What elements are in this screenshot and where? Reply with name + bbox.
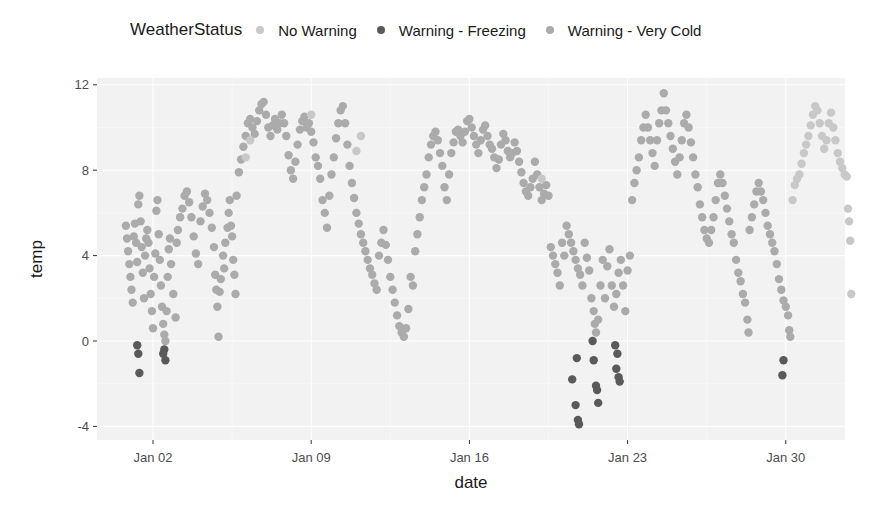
- data-point: [642, 111, 650, 119]
- data-point: [515, 158, 523, 166]
- data-point: [501, 136, 509, 144]
- data-point: [621, 307, 629, 315]
- data-point: [164, 273, 172, 281]
- data-point: [305, 119, 313, 127]
- data-point: [734, 269, 742, 277]
- data-point: [613, 350, 621, 358]
- data-point: [278, 111, 286, 119]
- data-point: [739, 290, 747, 298]
- data-point: [616, 377, 624, 385]
- data-point: [284, 151, 292, 159]
- data-point: [820, 145, 828, 153]
- data-point: [593, 386, 601, 394]
- data-point: [691, 170, 699, 178]
- data-point: [165, 245, 173, 253]
- data-point: [361, 247, 369, 255]
- x-axis: Jan 02Jan 09Jan 16Jan 23Jan 30: [133, 440, 805, 465]
- data-point: [173, 239, 181, 247]
- data-point: [723, 204, 731, 212]
- data-point: [203, 196, 211, 204]
- data-point: [420, 183, 428, 191]
- data-point: [581, 239, 589, 247]
- data-point: [413, 230, 421, 238]
- data-point: [587, 294, 595, 302]
- y-tick-label: 0: [82, 334, 89, 349]
- data-point: [216, 288, 224, 296]
- data-point: [813, 106, 821, 114]
- data-point: [745, 226, 753, 234]
- data-point: [575, 420, 583, 428]
- data-point: [242, 153, 250, 161]
- data-point: [827, 108, 835, 116]
- data-point: [653, 136, 661, 144]
- data-point: [766, 230, 774, 238]
- data-point: [359, 239, 367, 247]
- data-point: [289, 175, 297, 183]
- data-point: [843, 172, 851, 180]
- data-point: [712, 196, 720, 204]
- data-point: [743, 315, 751, 323]
- data-point: [221, 239, 229, 247]
- data-point: [213, 303, 221, 311]
- data-point: [730, 239, 738, 247]
- data-point: [176, 213, 184, 221]
- data-point: [350, 194, 358, 202]
- data-point: [411, 247, 419, 255]
- data-point: [357, 132, 365, 140]
- data-point: [744, 328, 752, 336]
- data-point: [682, 111, 690, 119]
- data-point: [192, 249, 200, 257]
- data-point: [445, 170, 453, 178]
- data-point: [644, 123, 652, 131]
- data-point: [220, 264, 228, 272]
- data-point: [517, 168, 525, 176]
- data-point: [185, 198, 193, 206]
- data-point: [161, 356, 169, 364]
- data-point: [662, 106, 670, 114]
- data-point: [418, 196, 426, 204]
- data-point: [694, 183, 702, 191]
- data-point: [651, 162, 659, 170]
- data-point: [438, 162, 446, 170]
- data-point: [524, 192, 532, 200]
- data-point: [156, 256, 164, 264]
- data-point: [804, 132, 812, 140]
- data-point: [834, 149, 842, 157]
- data-point: [171, 313, 179, 321]
- data-point: [845, 217, 853, 225]
- data-point: [611, 341, 619, 349]
- data-point: [678, 136, 686, 144]
- data-point: [325, 192, 333, 200]
- data-point: [531, 158, 539, 166]
- data-point: [648, 149, 656, 157]
- data-point: [125, 260, 133, 268]
- data-point: [314, 162, 322, 170]
- data-point: [474, 149, 482, 157]
- data-point: [721, 192, 729, 200]
- data-point: [481, 121, 489, 129]
- data-point: [352, 147, 360, 155]
- data-point: [148, 307, 156, 315]
- data-point: [155, 230, 163, 238]
- data-point: [352, 209, 360, 217]
- data-point: [246, 136, 254, 144]
- data-point: [630, 179, 638, 187]
- data-point: [449, 138, 457, 146]
- data-point: [400, 333, 408, 341]
- data-point: [614, 269, 622, 277]
- data-point: [605, 245, 613, 253]
- data-point: [675, 153, 683, 161]
- data-point: [157, 281, 165, 289]
- data-point: [495, 155, 503, 163]
- data-point: [788, 196, 796, 204]
- data-point: [687, 138, 695, 146]
- data-point: [655, 119, 663, 127]
- data-point: [309, 138, 317, 146]
- data-point: [596, 281, 604, 289]
- data-point: [150, 273, 158, 281]
- x-axis-title: date: [454, 473, 487, 492]
- data-point: [748, 213, 756, 221]
- data-point: [590, 307, 598, 315]
- data-point: [664, 119, 672, 127]
- data-point: [169, 290, 177, 298]
